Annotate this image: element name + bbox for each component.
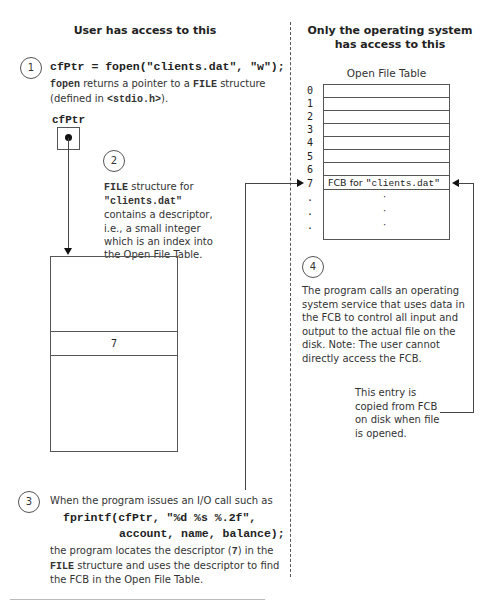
table-row-1 bbox=[323, 97, 450, 110]
row-index-more-3: . bbox=[307, 219, 317, 232]
clients-dat-name: "clients.dat" bbox=[104, 196, 182, 207]
file-keyword-3: FILE bbox=[50, 561, 74, 572]
row-index-7: 7 bbox=[307, 177, 317, 190]
fcb-copy-note: This entry is copied from FCB on disk wh… bbox=[355, 386, 450, 440]
step3-line2: structure and uses the descriptor to fin… bbox=[74, 560, 279, 571]
descriptor-lookup-description: the program locates the descriptor (7) i… bbox=[50, 544, 290, 587]
fprintf-code-line2: account, name, balance); bbox=[119, 527, 285, 540]
row-index-1: 1 bbox=[307, 97, 317, 110]
step2-line3: contains a descriptor, bbox=[104, 208, 244, 221]
fcb-copy-horizontal-top bbox=[458, 183, 474, 184]
defined-in-text: (defined in bbox=[50, 93, 107, 104]
table-remaining-rows bbox=[323, 190, 450, 240]
defined-in-close: ). bbox=[161, 93, 168, 104]
step-2-marker: 2 bbox=[103, 150, 125, 172]
pointer-arrow-icon bbox=[64, 248, 72, 255]
step4-line2: system service that uses data in bbox=[302, 298, 477, 312]
descriptor-cell: 7 bbox=[50, 331, 178, 356]
os-access-header-line2: has access to this bbox=[300, 38, 480, 52]
step4-line1: The program calls an operating bbox=[302, 284, 477, 298]
table-row-4 bbox=[323, 136, 450, 149]
os-service-description: The program calls an operating system se… bbox=[302, 284, 477, 365]
step3-line1b: ) in the bbox=[238, 545, 274, 556]
fopen-keyword: fopen bbox=[50, 79, 80, 90]
step4-line4: output to the actual file on the bbox=[302, 325, 477, 339]
row-index-3: 3 bbox=[307, 123, 317, 136]
step-4-marker: 4 bbox=[302, 256, 324, 278]
row-index-4: 4 bbox=[307, 136, 317, 149]
stdio-header: <stdio.h> bbox=[107, 94, 161, 105]
step4-line6: directly access the FCB. bbox=[302, 352, 477, 366]
fcb-entry-filename: "clients.dat" bbox=[366, 178, 440, 189]
os-access-header-line1: Only the operating system bbox=[300, 24, 480, 38]
step4-line5: disk. Note: The user cannot bbox=[302, 338, 477, 352]
ellipsis-1: · bbox=[383, 191, 386, 202]
cfptr-label: cfPtr bbox=[52, 114, 85, 126]
os-access-header: Only the operating system has access to … bbox=[300, 24, 480, 52]
file-keyword-2: FILE bbox=[104, 182, 128, 193]
fopen-desc-text2: structure bbox=[217, 78, 266, 89]
step3-line1a: the program locates the descriptor ( bbox=[50, 545, 232, 556]
file-structure-description: FILE structure for "clients.dat" contain… bbox=[104, 180, 244, 261]
row-index-0: 0 bbox=[307, 84, 317, 97]
row-index-2: 2 bbox=[307, 110, 317, 123]
table-row-0 bbox=[323, 84, 450, 97]
table-row-6 bbox=[323, 162, 450, 175]
step-3-marker: 3 bbox=[18, 491, 40, 513]
open-file-table-title: Open File Table bbox=[323, 67, 450, 79]
row7-arrow-icon bbox=[297, 179, 304, 187]
fopen-description: fopen returns a pointer to a FILE struct… bbox=[50, 77, 290, 106]
step2-line4: i.e., a small integer bbox=[104, 222, 244, 235]
ellipsis-2: · bbox=[383, 205, 386, 216]
copy-note-line2: copied from FCB bbox=[355, 400, 450, 414]
step4-line3: the FCB to control all input and bbox=[302, 311, 477, 325]
fopen-call-code: cfPtr = fopen("clients.dat", "w"); bbox=[50, 60, 285, 73]
file-keyword: FILE bbox=[193, 79, 217, 90]
step-1-marker: 1 bbox=[20, 57, 42, 79]
copy-note-line3: on disk when file bbox=[355, 413, 450, 427]
row-index-more-1: . bbox=[307, 191, 317, 204]
page-bottom-rule bbox=[10, 599, 265, 600]
table-row-7-fcb: FCB for "clients.dat" bbox=[323, 175, 450, 190]
step3-line3: the FCB in the Open File Table. bbox=[50, 573, 290, 587]
table-row-3 bbox=[323, 123, 450, 136]
row-index-5: 5 bbox=[307, 150, 317, 163]
copy-note-line4: is opened. bbox=[355, 427, 450, 441]
copy-note-line1: This entry is bbox=[355, 386, 450, 400]
row-index-more-2: . bbox=[307, 205, 317, 218]
step2-line5: which is an index into bbox=[104, 235, 244, 248]
descriptor-lookup-horizontal bbox=[245, 183, 298, 184]
step2-line1: structure for bbox=[128, 181, 194, 192]
access-divider bbox=[290, 22, 291, 577]
io-call-intro: When the program issues an I/O call such… bbox=[50, 494, 273, 508]
fopen-desc-text: returns a pointer to a bbox=[80, 78, 193, 89]
table-row-2 bbox=[323, 110, 450, 123]
fprintf-code-line1: fprintf(cfPtr, "%d %s %.2f", bbox=[63, 511, 256, 524]
table-row-5 bbox=[323, 149, 450, 162]
row-index-6: 6 bbox=[307, 163, 317, 176]
ellipsis-3: · bbox=[383, 219, 386, 230]
descriptor-lookup-line bbox=[245, 183, 246, 490]
fcb-entry-label: FCB for bbox=[328, 177, 366, 188]
pointer-line bbox=[68, 138, 69, 248]
user-access-header: User has access to this bbox=[50, 24, 240, 38]
